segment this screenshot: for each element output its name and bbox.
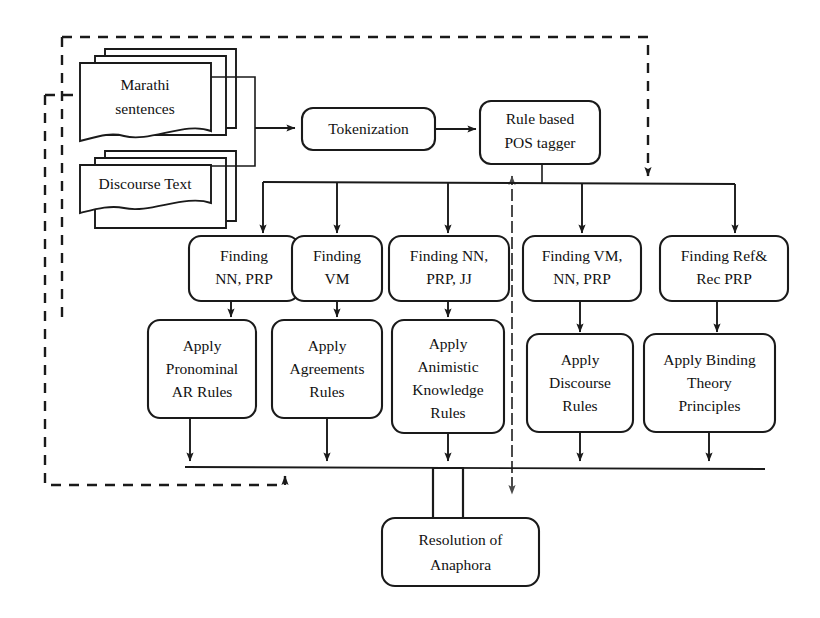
node-finding-nn-prp-jj-label-2: PRP, JJ [426, 270, 472, 287]
node-finding-vm-label-2: VM [325, 270, 350, 287]
node-apply-discourse-rules[interactable]: Apply Discourse Rules [527, 334, 633, 432]
input-marathi-sentences[interactable]: Marathi sentences [80, 49, 236, 141]
node-apply-discourse-label-2: Discourse [549, 374, 611, 391]
node-finding-nn-prp[interactable]: Finding NN, PRP [189, 236, 299, 301]
input-discourse-text-label-1: Discourse Text [99, 175, 193, 192]
node-finding-ref-rec-prp-label-1: Finding Ref& [681, 247, 768, 264]
node-pos-tagger-label-2: POS tagger [504, 134, 576, 151]
node-resolution-label-2: Anaphora [430, 556, 491, 573]
node-apply-pronominal-label-2: Pronominal [166, 360, 238, 377]
node-apply-discourse-label-3: Rules [562, 397, 597, 414]
node-finding-nn-prp-jj[interactable]: Finding NN, PRP, JJ [389, 236, 509, 301]
node-apply-binding-theory-principles[interactable]: Apply Binding Theory Principles [644, 334, 775, 432]
node-finding-vm-nn-prp[interactable]: Finding VM, NN, PRP [523, 236, 641, 301]
node-tokenization[interactable]: Tokenization [302, 108, 435, 150]
node-resolution-label-1: Resolution of [419, 531, 504, 548]
node-finding-vm-nn-prp-label-2: NN, PRP [553, 270, 611, 287]
node-finding-nn-prp-jj-label-1: Finding NN, [410, 247, 488, 264]
flowchart-canvas: Marathi sentences Discourse Text Tokeniz… [0, 0, 820, 618]
node-apply-binding-label-2: Theory [687, 374, 732, 391]
node-finding-nn-prp-label-1: Finding [220, 247, 268, 264]
node-apply-animistic-label-4: Rules [430, 404, 465, 421]
input-marathi-sentences-label-2: sentences [115, 100, 174, 117]
node-apply-agreements-label-3: Rules [309, 383, 344, 400]
node-finding-ref-rec-prp-label-2: Rec PRP [696, 270, 752, 287]
node-finding-vm-label-1: Finding [313, 247, 361, 264]
node-pos-tagger-label-1: Rule based [506, 110, 575, 127]
node-finding-vm[interactable]: Finding VM [292, 236, 382, 301]
flowchart-diagram: Marathi sentences Discourse Text Tokeniz… [0, 0, 820, 618]
node-finding-ref-rec-prp[interactable]: Finding Ref& Rec PRP [660, 236, 788, 301]
node-apply-binding-label-3: Principles [679, 397, 741, 414]
node-tokenization-label: Tokenization [328, 120, 409, 137]
node-apply-agreements-label-1: Apply [308, 337, 347, 354]
apply-stage-row: Apply Pronominal AR Rules Apply Agreemen… [148, 320, 775, 433]
finding-stage-row: Finding NN, PRP Finding VM Finding NN, P… [189, 236, 788, 301]
node-finding-nn-prp-label-2: NN, PRP [215, 270, 273, 287]
node-apply-animistic-label-3: Knowledge [412, 381, 484, 398]
node-apply-agreements-rules[interactable]: Apply Agreements Rules [272, 320, 382, 418]
node-apply-binding-label-1: Apply Binding [663, 351, 756, 368]
node-apply-agreements-label-2: Agreements [290, 360, 365, 377]
input-discourse-text[interactable]: Discourse Text [80, 151, 236, 228]
node-apply-pronominal-ar-rules[interactable]: Apply Pronominal AR Rules [148, 320, 256, 418]
node-apply-pronominal-label-1: Apply [183, 337, 222, 354]
node-apply-discourse-label-1: Apply [561, 351, 600, 368]
node-finding-vm-nn-prp-label-1: Finding VM, [542, 247, 623, 264]
node-rule-based-pos-tagger[interactable]: Rule based POS tagger [480, 101, 600, 164]
input-marathi-sentences-label-1: Marathi [120, 76, 170, 93]
node-apply-animistic-label-2: Animistic [417, 358, 478, 375]
node-apply-animistic-label-1: Apply [429, 335, 468, 352]
node-resolution-of-anaphora[interactable]: Resolution of Anaphora [382, 518, 539, 586]
node-apply-animistic-knowledge-rules[interactable]: Apply Animistic Knowledge Rules [392, 320, 504, 433]
node-apply-pronominal-label-3: AR Rules [172, 383, 233, 400]
